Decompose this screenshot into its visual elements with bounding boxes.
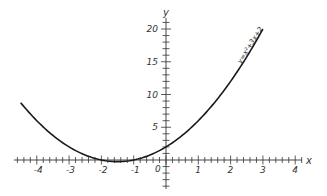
y-tick-label: 20	[147, 24, 159, 34]
x-tick-label: 3	[260, 165, 266, 175]
y-axis-label: y	[162, 7, 170, 18]
x-tick-label: -2	[98, 165, 107, 175]
ticks	[17, 22, 301, 186]
origin-label: 0	[155, 164, 161, 174]
curve-series	[21, 29, 263, 162]
x-axis-label: x	[305, 155, 312, 166]
x-tick-label: 4	[292, 165, 298, 175]
x-tick-label: 2	[228, 165, 234, 175]
y-tick-label: 10	[147, 90, 159, 100]
x-tick-label: -3	[66, 165, 75, 175]
x-tick-label: 1	[195, 165, 201, 175]
x-tick-label: -1	[131, 165, 140, 175]
y-tick-label: 15	[147, 57, 159, 67]
curve-equation-label: y=x²+3x+2	[235, 25, 265, 66]
y-tick-label: 5	[152, 122, 158, 132]
parabola-chart: -4-3-2-112345101520 x y 0 y=x²+3x+2	[0, 0, 327, 196]
x-tick-label: -4	[34, 165, 43, 175]
